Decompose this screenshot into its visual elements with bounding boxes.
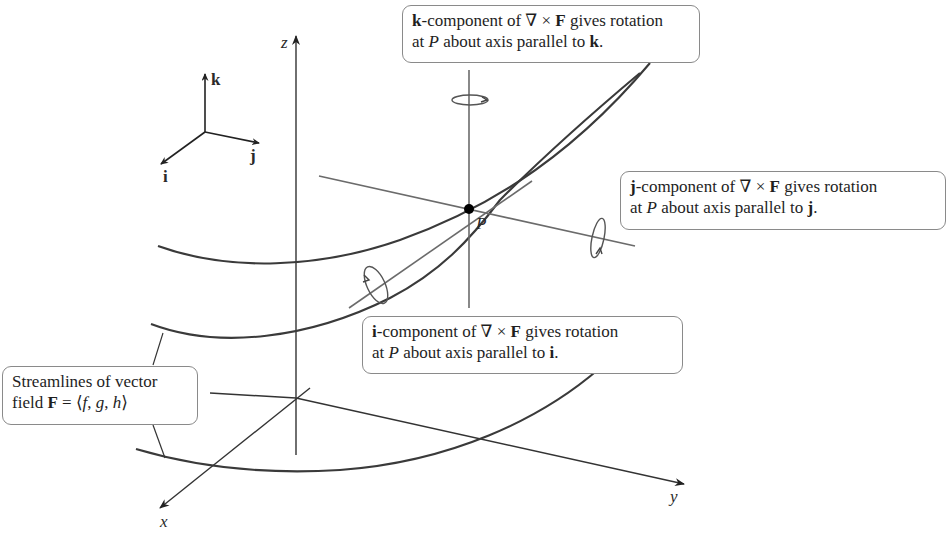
i-unit-arrow [161, 132, 205, 164]
streamline-middle [151, 73, 640, 338]
j-component-callout: j-component of ∇ × F gives rotation at P… [620, 171, 946, 230]
k-callout-line1: k-component of ∇ × F gives rotation [412, 10, 691, 31]
diagram-canvas [0, 0, 951, 534]
unit-vector-triad [161, 74, 259, 164]
rotation-axes [319, 70, 635, 308]
z-axis-label: z [281, 33, 288, 53]
k-component-callout: k-component of ∇ × F gives rotation at P… [402, 5, 700, 63]
k-rotation-circle [452, 95, 488, 105]
streamlines-callout-line2: field F = ⟨f, g, h⟩ [12, 392, 189, 413]
k-callout-line2: at P about axis parallel to k. [412, 31, 691, 52]
point-p-label: P [476, 214, 486, 234]
j-rotation-axis [319, 176, 635, 246]
j-unit-arrow [205, 132, 259, 143]
j-callout-line2: at P about axis parallel to j. [630, 197, 937, 218]
i-rotation-axis [349, 181, 532, 308]
x-axis-back [210, 393, 296, 398]
y-axis-label: y [670, 487, 678, 507]
j-callout-line1: j-component of ∇ × F gives rotation [630, 176, 937, 197]
streamlines-callout-line1: Streamlines of vector [12, 371, 189, 392]
coordinate-axes [160, 36, 684, 508]
streamlines-callout: Streamlines of vector field F = ⟨f, g, h… [2, 366, 198, 425]
y-axis [296, 398, 684, 484]
x-axis-label: x [160, 512, 168, 532]
j-unit-label: j [250, 146, 256, 166]
point-p [464, 204, 474, 214]
i-callout-line2: at P about axis parallel to i. [372, 342, 674, 363]
i-rotation-circle [359, 263, 392, 307]
k-unit-label: k [211, 70, 220, 90]
i-callout-line1: i-component of ∇ × F gives rotation [372, 321, 674, 342]
i-unit-label: i [163, 167, 168, 187]
streamlines [136, 63, 650, 471]
i-component-callout: i-component of ∇ × F gives rotation at P… [362, 316, 683, 374]
